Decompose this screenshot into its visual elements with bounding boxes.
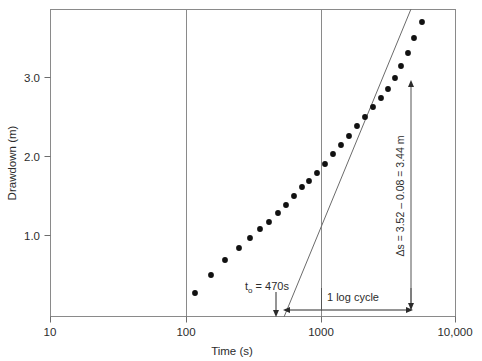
data-point [370, 104, 376, 110]
data-point [322, 161, 328, 167]
data-point [222, 257, 228, 263]
delta-s-label: Δs = 3.52 – 0.08 = 3.44 m [394, 135, 406, 256]
t-zero-annotation: to = 470s [245, 280, 289, 317]
log-cycle-arrow-head-right [406, 307, 413, 313]
delta-s-annotation: Δs = 3.52 – 0.08 = 3.44 m [394, 80, 414, 310]
x-tick-label-1000: 1000 [308, 326, 334, 338]
x-axis-ticks [51, 317, 456, 323]
y-axis-ticks [45, 78, 51, 236]
x-tick-label-10000: 10,000 [437, 326, 472, 338]
y-axis-tick-labels: 1.0 2.0 3.0 [24, 72, 40, 242]
data-point [236, 245, 242, 251]
data-point [346, 133, 352, 139]
data-point [306, 178, 312, 184]
x-gridlines [187, 10, 322, 317]
data-point [411, 35, 417, 41]
data-point [419, 19, 425, 25]
t-zero-arrow-head [273, 310, 279, 317]
data-point [247, 235, 253, 241]
data-point [338, 142, 344, 148]
x-tick-label-100: 100 [176, 326, 195, 338]
data-point [299, 184, 305, 190]
x-axis-tick-labels: 10 100 1000 10,000 [44, 326, 473, 338]
data-point [257, 226, 263, 232]
data-point [208, 272, 214, 278]
data-point [405, 50, 411, 56]
y-tick-label-1: 1.0 [24, 230, 40, 242]
y-tick-label-2: 2.0 [24, 151, 40, 163]
chart-svg: 10 100 1000 10,000 Time (s) 1.0 2.0 3.0 … [0, 0, 482, 361]
t-zero-label: to = 470s [245, 280, 289, 295]
y-tick-label-3: 3.0 [24, 72, 40, 84]
fit-line [284, 9, 411, 317]
data-point [354, 123, 360, 129]
data-point [378, 95, 384, 101]
chart-figure: 10 100 1000 10,000 Time (s) 1.0 2.0 3.0 … [0, 0, 482, 361]
data-point [266, 219, 272, 225]
t-zero-suffix: = 470s [253, 280, 290, 292]
data-point [275, 210, 281, 216]
data-point [385, 86, 391, 92]
data-point [283, 202, 289, 208]
data-point [398, 63, 404, 69]
y-axis-title: Drawdown (m) [6, 125, 18, 200]
log-cycle-label: 1 log cycle [327, 291, 379, 303]
x-tick-label-10: 10 [44, 326, 57, 338]
log-cycle-annotation: 1 log cycle [283, 288, 413, 313]
data-point [330, 151, 336, 157]
data-point [362, 114, 368, 120]
data-point [291, 193, 297, 199]
delta-s-arrow-head-top [408, 80, 414, 87]
data-point [314, 170, 320, 176]
x-axis-title: Time (s) [211, 345, 253, 357]
data-point [192, 290, 198, 296]
data-point [392, 75, 398, 81]
